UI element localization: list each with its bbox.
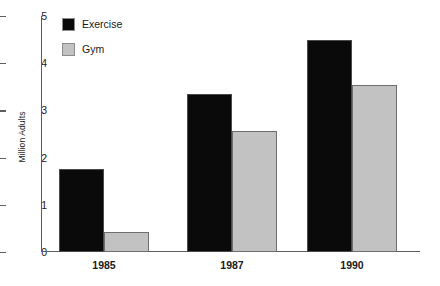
bar-gym-1987 — [232, 131, 277, 252]
gray-square-swatch-icon — [62, 43, 75, 56]
bar-gym-1990 — [352, 85, 397, 252]
legend-item-label: Exercise — [82, 18, 122, 30]
bar-exercise-1985 — [59, 169, 104, 252]
bar-chart: Million Adults 012345 198519871990 Exerc… — [0, 0, 440, 286]
bar-gym-1985 — [104, 232, 149, 252]
y-axis-tick-mark — [0, 63, 6, 64]
y-axis-tick-mark — [0, 205, 6, 206]
y-axis-tick-mark — [0, 16, 6, 17]
legend-item-exercise: Exercise — [62, 14, 122, 34]
bar-group-1990 — [307, 16, 397, 252]
chart-legend: Exercise Gym — [62, 14, 122, 64]
y-axis-tick-mark — [0, 252, 6, 253]
bar-exercise-1987 — [187, 94, 232, 252]
bar-exercise-1990 — [307, 40, 352, 252]
y-axis-tick-mark — [0, 158, 6, 159]
x-axis-tick-label: 1990 — [307, 259, 397, 271]
bar-group-1987 — [187, 16, 277, 252]
y-axis-tick-mark — [0, 110, 6, 111]
y-axis-title: Million Adults — [17, 82, 27, 192]
legend-item-gym: Gym — [62, 39, 122, 59]
x-axis-tick-label: 1987 — [187, 259, 277, 271]
black-square-swatch-icon — [62, 18, 75, 31]
legend-item-label: Gym — [82, 43, 104, 55]
x-axis-tick-label: 1985 — [59, 259, 149, 271]
